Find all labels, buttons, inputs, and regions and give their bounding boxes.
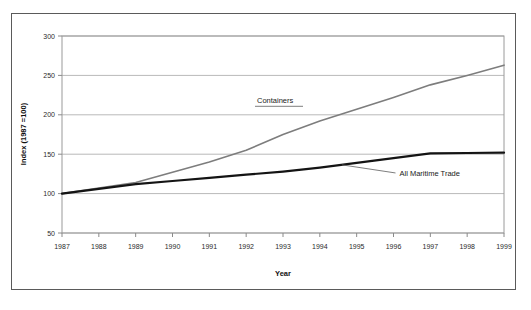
- y-tick-label: 100: [43, 190, 55, 197]
- x-tick-label: 1991: [202, 243, 218, 250]
- x-tick-label: 1999: [496, 243, 512, 250]
- chart-background: [12, 14, 515, 289]
- series-label-all-maritime-trade: All Maritime Trade: [400, 169, 460, 178]
- x-tick-label: 1995: [349, 243, 365, 250]
- figure-container: 50100150200250300 1987198819891990199119…: [0, 0, 531, 310]
- x-tick-label: 1988: [91, 243, 107, 250]
- x-tick-label: 1994: [312, 243, 328, 250]
- chart-frame: 50100150200250300 1987198819891990199119…: [11, 13, 516, 290]
- y-tick-label: 300: [43, 33, 55, 40]
- x-tick-label: 1993: [275, 243, 291, 250]
- x-tick-label: 1997: [423, 243, 439, 250]
- line-chart: 50100150200250300 1987198819891990199119…: [12, 14, 515, 289]
- x-tick-label: 1992: [238, 243, 254, 250]
- x-axis-title: Year: [275, 269, 291, 278]
- x-tick-label: 1996: [386, 243, 402, 250]
- x-tick-label: 1998: [459, 243, 475, 250]
- x-tick-label: 1987: [54, 243, 70, 250]
- y-axis-title: Index (1987 =100): [19, 102, 28, 165]
- y-tick-label: 250: [43, 72, 55, 79]
- x-tick-label: 1989: [128, 243, 144, 250]
- y-tick-label: 150: [43, 151, 55, 158]
- x-tick-label: 1990: [165, 243, 181, 250]
- y-tick-label: 50: [47, 230, 55, 237]
- series-label-containers: Containers: [257, 96, 294, 105]
- y-tick-label: 200: [43, 111, 55, 118]
